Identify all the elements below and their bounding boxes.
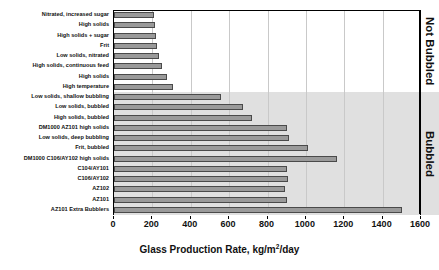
bar-row[interactable] (114, 174, 420, 184)
bar[interactable] (114, 74, 167, 80)
bar-row[interactable] (114, 205, 420, 215)
bar-row[interactable] (114, 41, 420, 51)
region-side-labels: Not Bubbled Bubbled (420, 10, 439, 215)
category-label: DM1000 AZ101 high solids (39, 125, 109, 131)
bar[interactable] (114, 186, 285, 192)
bar-row[interactable] (114, 72, 420, 82)
x-tick-label-200: 200 (144, 220, 159, 229)
bar[interactable] (114, 156, 337, 162)
bar-row[interactable] (114, 51, 420, 61)
x-axis-ticks: 02004006008001000120014001600 (0, 216, 439, 234)
x-tick-label-0: 0 (110, 220, 115, 229)
x-tick-label-1200: 1200 (333, 220, 353, 229)
bar[interactable] (114, 197, 287, 203)
bar[interactable] (114, 84, 173, 90)
bar[interactable] (114, 135, 289, 141)
bar[interactable] (114, 12, 154, 18)
side-label-not-bubbled: Not Bubbled (424, 17, 436, 85)
category-label: Low solids, deep bubbling (39, 135, 109, 141)
bar[interactable] (114, 145, 308, 151)
bar[interactable] (114, 115, 252, 121)
x-tick-label-800: 800 (259, 220, 274, 229)
plot-area (113, 10, 420, 215)
category-label: High temperature (63, 84, 109, 90)
bar[interactable] (114, 166, 287, 172)
bar-row[interactable] (114, 184, 420, 194)
bar-row[interactable] (114, 113, 420, 123)
category-label: Nitrated, increased sugar (42, 12, 109, 18)
category-label: AZ102 (92, 187, 109, 193)
category-label: C106/AY102 (77, 176, 109, 182)
bar-row[interactable] (114, 20, 420, 30)
category-label: High solids (79, 23, 109, 29)
category-label: Frit (100, 43, 109, 49)
x-axis-title-tail: /day (279, 244, 299, 255)
category-label: High solids + sugar (57, 33, 109, 39)
bar[interactable] (114, 43, 157, 49)
x-tick-label-400: 400 (182, 220, 197, 229)
category-label: DM1000 C106/AY102 high solids (24, 156, 109, 162)
bar-row[interactable] (114, 133, 420, 143)
category-label: High solids, continuous feed (33, 64, 109, 70)
x-tick-label-1600: 1600 (410, 220, 430, 229)
category-label: Low solids, nitrated (56, 53, 109, 59)
bar[interactable] (114, 33, 156, 39)
category-label: C104/AY101 (77, 166, 109, 172)
category-label: Low solids, bubbled (55, 105, 109, 111)
x-tick-label-1400: 1400 (372, 220, 392, 229)
category-label: AZ101 (92, 197, 109, 203)
x-axis-title-main: Glass Production Rate, kg/m (140, 244, 276, 255)
bar[interactable] (114, 53, 159, 59)
bar-rows (114, 10, 420, 214)
bar-row[interactable] (114, 123, 420, 133)
bar[interactable] (114, 104, 243, 110)
x-axis-title: Glass Production Rate, kg/m2/day (0, 243, 439, 255)
bar[interactable] (114, 22, 155, 28)
category-label: High solids (79, 74, 109, 80)
bar-row[interactable] (114, 92, 420, 102)
bar[interactable] (114, 207, 402, 213)
bar-row[interactable] (114, 195, 420, 205)
category-label: Frit, bubbled (75, 146, 109, 152)
bar-row[interactable] (114, 31, 420, 41)
bar-row[interactable] (114, 61, 420, 71)
category-label: AZ101 Extra Bubblers (51, 207, 109, 213)
bar-row[interactable] (114, 82, 420, 92)
bar-row[interactable] (114, 164, 420, 174)
bar-row[interactable] (114, 10, 420, 20)
x-tick-label-600: 600 (221, 220, 236, 229)
x-tick-label-1000: 1000 (295, 220, 315, 229)
plot-top-border (114, 10, 420, 11)
side-label-bubbled: Bubbled (424, 131, 436, 177)
bar[interactable] (114, 94, 221, 100)
bar-row[interactable] (114, 143, 420, 153)
category-axis-labels: Nitrated, increased sugarHigh solidsHigh… (0, 10, 112, 215)
bar-row[interactable] (114, 154, 420, 164)
category-label: High solids, bubbled (54, 115, 109, 121)
side-band-not-bubbled: Not Bubbled (420, 10, 439, 92)
bar[interactable] (114, 176, 288, 182)
bar[interactable] (114, 125, 287, 131)
bar[interactable] (114, 63, 162, 69)
category-label: Low solids, shallow bubbling (31, 94, 109, 100)
glass-production-rate-bar-chart: Nitrated, increased sugarHigh solidsHigh… (0, 0, 439, 270)
bar-row[interactable] (114, 102, 420, 112)
side-band-bubbled: Bubbled (420, 92, 439, 215)
